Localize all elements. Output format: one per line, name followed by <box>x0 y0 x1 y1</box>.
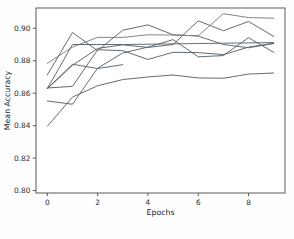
x-tick-layer: 02468 <box>45 193 251 207</box>
y-tick-label: 0.90 <box>14 24 31 33</box>
x-axis-title: Epochs <box>147 208 175 217</box>
x-tick-label: 2 <box>95 198 100 207</box>
y-axis-title: Mean Accuracy <box>3 70 12 130</box>
plot-background <box>36 8 285 193</box>
y-tick-label: 0.86 <box>14 89 31 98</box>
chart-figure: 0.800.820.840.860.880.90 02468 Epochs Me… <box>0 0 294 239</box>
y-tick-label: 0.80 <box>14 186 31 195</box>
line-chart: 0.800.820.840.860.880.90 02468 Epochs Me… <box>0 0 294 239</box>
y-tick-label: 0.82 <box>14 154 30 163</box>
y-tick-label: 0.84 <box>14 121 31 130</box>
x-tick-label: 6 <box>196 198 201 207</box>
y-tick-layer: 0.800.820.840.860.880.90 <box>14 24 36 195</box>
x-tick-label: 4 <box>146 198 151 207</box>
x-tick-label: 8 <box>246 198 251 207</box>
x-tick-label: 0 <box>45 198 50 207</box>
y-tick-label: 0.88 <box>14 56 31 65</box>
